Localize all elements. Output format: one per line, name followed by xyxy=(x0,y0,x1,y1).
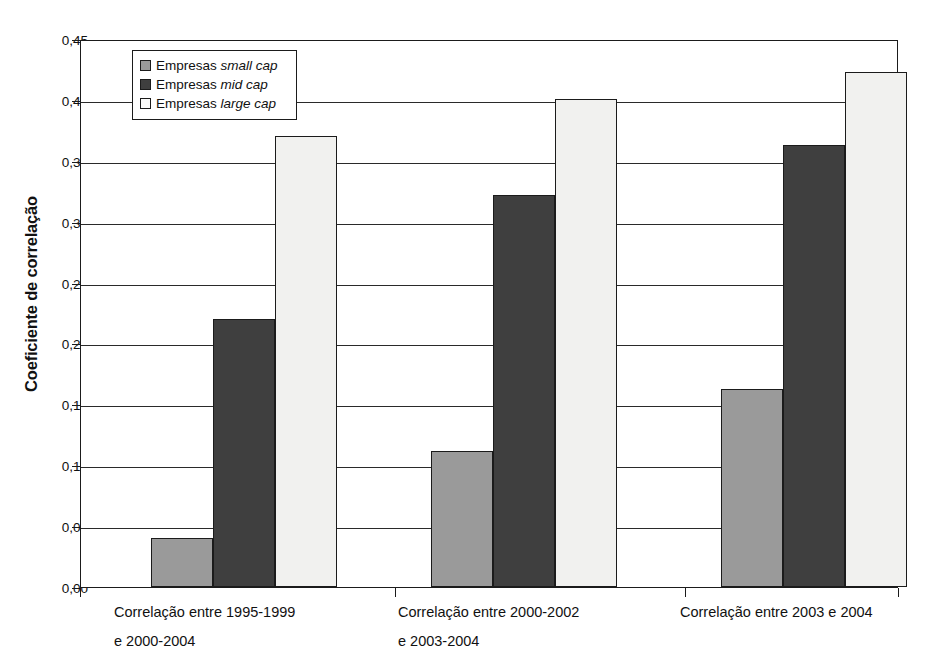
legend-label-small-cap: Empresas small cap xyxy=(156,58,278,73)
x-axis-category-label-line: Correlação entre 2003 e 2004 xyxy=(680,598,873,627)
x-axis-category-label-line: e 2003-2004 xyxy=(398,627,579,656)
y-axis-tick-mark xyxy=(72,344,80,345)
y-axis-tick-mark xyxy=(72,284,80,285)
x-axis-category-label-3: Correlação entre 2003 e 2004 xyxy=(680,598,873,627)
x-axis-category-label-1: Correlação entre 1995-1999e 2000-2004 xyxy=(114,598,295,656)
bar-mid-cap-group-2 xyxy=(493,195,555,587)
bar-small-cap-group-2 xyxy=(431,451,493,587)
y-axis-title: Coeficiente de correlação xyxy=(14,0,48,588)
bar-large-cap-group-3 xyxy=(845,72,907,587)
legend: Empresas small cap Empresas mid cap Empr… xyxy=(132,50,297,120)
bar-large-cap-group-2 xyxy=(555,99,617,587)
bar-small-cap-group-3 xyxy=(721,389,783,587)
x-axis-tick-mark xyxy=(395,588,396,597)
x-axis-category-label-line: e 2000-2004 xyxy=(114,627,295,656)
legend-item-mid-cap: Empresas mid cap xyxy=(140,75,289,94)
legend-label-mid-cap: Empresas mid cap xyxy=(156,77,268,92)
x-axis-tick-mark xyxy=(685,588,686,597)
bar-small-cap-group-1 xyxy=(151,538,213,587)
y-axis-tick-mark xyxy=(72,405,80,406)
x-axis-category-label-line: Correlação entre 2000-2002 xyxy=(398,598,579,627)
bar-series-container xyxy=(81,41,897,587)
legend-swatch-small-cap xyxy=(140,60,151,71)
y-axis-tick-mark xyxy=(72,588,80,589)
bar-chart-figure: Coeficiente de correlação 0,000,050,100,… xyxy=(0,0,930,671)
legend-item-small-cap: Empresas small cap xyxy=(140,56,289,75)
y-axis-tick-mark xyxy=(72,101,80,102)
bar-large-cap-group-1 xyxy=(275,136,337,587)
y-axis-tick-mark xyxy=(72,162,80,163)
y-axis-tick-mark xyxy=(72,466,80,467)
legend-swatch-large-cap xyxy=(140,98,151,109)
x-axis-tick-mark xyxy=(898,588,899,597)
legend-label-large-cap: Empresas large cap xyxy=(156,96,276,111)
y-axis-tick-mark xyxy=(72,527,80,528)
legend-swatch-mid-cap xyxy=(140,79,151,90)
plot-area xyxy=(80,40,898,588)
x-axis-category-label-2: Correlação entre 2000-2002e 2003-2004 xyxy=(398,598,579,656)
bar-mid-cap-group-3 xyxy=(783,145,845,587)
y-axis-tick-mark xyxy=(72,40,80,41)
legend-item-large-cap: Empresas large cap xyxy=(140,94,289,113)
bar-mid-cap-group-1 xyxy=(213,319,275,587)
x-axis-category-label-line: Correlação entre 1995-1999 xyxy=(114,598,295,627)
x-axis-tick-mark xyxy=(80,588,81,597)
y-axis-tick-mark xyxy=(72,223,80,224)
